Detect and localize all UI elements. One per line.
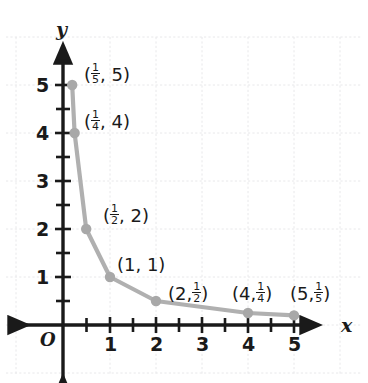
annotation-suffix: , 5) (100, 66, 130, 84)
fraction: 1 5 (91, 62, 100, 85)
annotation-suffix: ) (265, 285, 272, 303)
y-tick-label-5: 5 (36, 76, 49, 95)
point-annotation-4: (1, 1) (117, 256, 165, 274)
fraction-denominator: 4 (256, 293, 265, 304)
fraction-denominator: 2 (110, 215, 119, 226)
x-tick-label-2: 2 (150, 335, 163, 354)
point-annotation-5: (2, 1 2 ) (168, 282, 208, 305)
axes (26, 46, 318, 378)
annotation-prefix: ( (84, 113, 91, 131)
point-annotation-6: (4, 1 4 ) (232, 282, 272, 305)
fraction-denominator: 5 (314, 293, 323, 304)
annotation-prefix: (2, (168, 285, 192, 303)
x-tick-label-5: 5 (288, 335, 301, 354)
annotation-suffix: ) (201, 285, 208, 303)
fraction: 1 4 (91, 109, 100, 132)
annotation-prefix: ( (84, 66, 91, 84)
annotation-prefix: ( (103, 207, 110, 225)
data-point (81, 224, 91, 234)
y-axis-label: y (56, 20, 67, 39)
annotation-prefix: (5, (290, 285, 314, 303)
graph-canvas (0, 0, 368, 383)
x-axis-label: x (341, 316, 352, 335)
y-tick-label-3: 3 (36, 172, 49, 191)
data-point (69, 128, 79, 138)
annotation-prefix: (1, 1) (117, 256, 165, 274)
point-annotation-1: ( 1 5 , 5) (84, 63, 130, 86)
fraction: 1 5 (314, 281, 323, 304)
y-tick-label-1: 1 (36, 268, 49, 287)
data-point (151, 296, 161, 306)
point-annotation-3: ( 1 2 , 2) (103, 204, 149, 227)
coordinate-plane-figure: y x O 1 2 3 4 5 1 2 3 4 5 ( 1 5 , 5) ( 1… (0, 0, 368, 383)
x-tick-label-3: 3 (196, 335, 209, 354)
point-annotation-2: ( 1 4 , 4) (84, 110, 130, 133)
fraction: 1 4 (256, 281, 265, 304)
x-tick-label-1: 1 (104, 335, 117, 354)
fraction-denominator: 4 (91, 121, 100, 132)
data-point (243, 308, 253, 318)
y-tick-label-4: 4 (36, 124, 49, 143)
origin-label: O (40, 331, 56, 349)
annotation-suffix: ) (323, 285, 330, 303)
data-point (67, 80, 77, 90)
fraction-denominator: 5 (91, 74, 100, 85)
x-tick-label-4: 4 (242, 335, 255, 354)
data-point (289, 310, 299, 320)
fraction: 1 2 (192, 281, 201, 304)
fraction: 1 2 (110, 203, 119, 226)
annotation-suffix: , 2) (119, 207, 149, 225)
y-tick-label-2: 2 (36, 220, 49, 239)
annotation-prefix: (4, (232, 285, 256, 303)
annotation-suffix: , 4) (100, 113, 130, 131)
data-point (105, 272, 115, 282)
point-annotation-7: (5, 1 5 ) (290, 282, 330, 305)
fraction-denominator: 2 (192, 293, 201, 304)
